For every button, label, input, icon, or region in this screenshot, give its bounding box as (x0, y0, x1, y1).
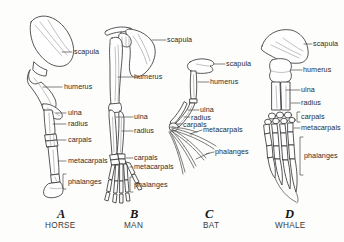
bat-label-metacarpals: metacarpals (203, 126, 243, 133)
whale-label-radius: radius (301, 99, 321, 106)
man-label-metacarpals: metacarpals (134, 163, 174, 170)
whale-label-ulna: ulna (301, 86, 315, 93)
man-label-ulna: ulna (134, 113, 148, 120)
man-label-scapula: scapula (167, 36, 192, 43)
panel-name-whale: WHALE (275, 222, 306, 230)
homologous-forelimb-figure: scapula humerus ulna radius carpals meta… (0, 0, 344, 242)
panel-letter-c: C (205, 208, 213, 221)
horse-label-humerus: humerus (64, 83, 92, 90)
bat-label-humerus: humerus (210, 78, 238, 85)
whale-label-humerus: humerus (303, 66, 331, 73)
panel-letter-b: B (130, 208, 138, 221)
horse-label-radius: radius (68, 120, 88, 127)
whale-label-scapula: scapula (313, 40, 338, 47)
whale-label-carpals: carpals (301, 113, 325, 120)
panel-name-bat: BAT (203, 222, 219, 230)
man-label-carpals: carpals (134, 154, 158, 161)
horse-label-carpals: carpals (68, 136, 92, 143)
panel-letter-d: D (285, 208, 294, 221)
panel-name-horse: HORSE (45, 222, 76, 230)
whale-label-phalanges: phalanges (304, 152, 338, 159)
panel-name-man: MAN (124, 222, 143, 230)
man-label-phalanges: phalanges (134, 181, 168, 188)
horse-label-phalanges: phalanges (68, 178, 102, 185)
horse-label-ulna: ulna (68, 109, 82, 116)
bat-label-scapula: scapula (226, 60, 251, 67)
panel-letter-a: A (57, 208, 65, 221)
man-label-humerus: humerus (134, 73, 162, 80)
bat-label-phalanges: phalanges (215, 148, 249, 155)
man-label-radius: radius (134, 127, 154, 134)
horse-label-metacarpals: metacarpals (68, 157, 108, 164)
whale-label-metacarpals: metacarpals (301, 124, 341, 131)
horse-limb-drawing (27, 16, 73, 198)
horse-label-scapula: scapula (74, 48, 99, 55)
